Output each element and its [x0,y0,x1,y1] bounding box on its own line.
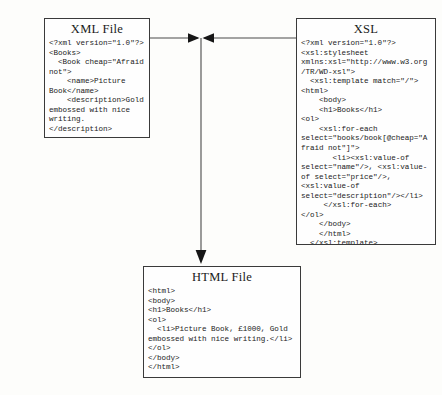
xsl-code: <?xml version="1.0"?> <xsl:stylesheet xm… [297,39,435,245]
xml-file-code: <?xml version="1.0"?> <Books> <Book chea… [45,39,149,138]
html-file-code: <html> <body> <h1>Books</h1> <ol> <li>Pi… [144,287,300,373]
diagram-canvas: XML File <?xml version="1.0"?> <Books> <… [0,0,442,395]
xml-file-title: XML File [45,19,149,39]
html-file-box: HTML File <html> <body> <h1>Books</h1> <… [143,266,301,378]
html-file-title: HTML File [144,267,300,287]
xsl-box: XSL <?xml version="1.0"?> <xsl:styleshee… [296,18,436,245]
arrowhead-right-icon [188,33,200,43]
arrowhead-left-icon [203,33,215,43]
xml-file-box: XML File <?xml version="1.0"?> <Books> <… [44,18,150,138]
arrowhead-down-icon [196,250,207,264]
xsl-title: XSL [297,19,435,39]
